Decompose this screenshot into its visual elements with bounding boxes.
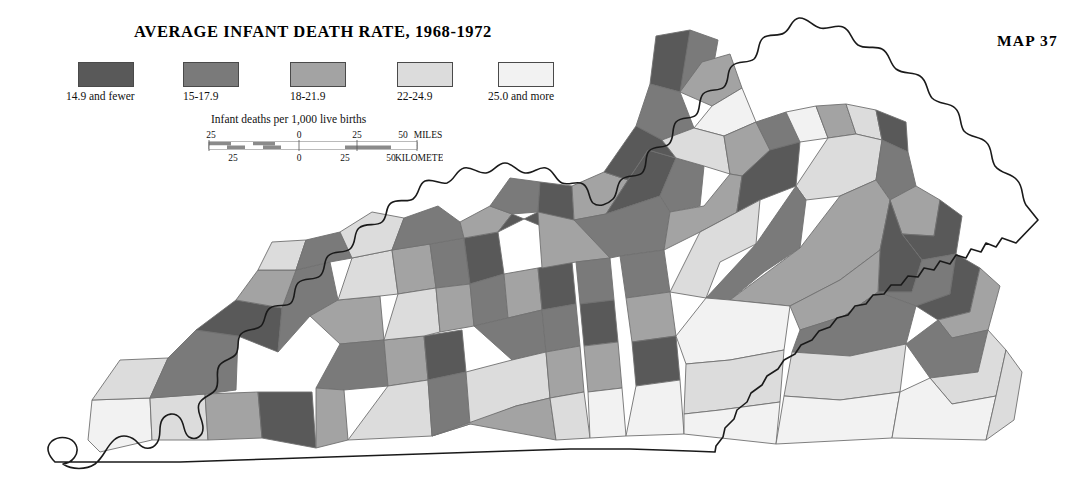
county-polygon bbox=[588, 388, 626, 438]
county-polygon bbox=[632, 336, 680, 386]
county-polygon bbox=[424, 330, 466, 380]
county-polygon bbox=[626, 292, 676, 342]
county-polygon bbox=[776, 392, 900, 444]
county-layer bbox=[88, 30, 1022, 452]
county-polygon bbox=[348, 380, 432, 440]
county-polygon bbox=[205, 392, 262, 440]
county-polygon bbox=[316, 340, 388, 390]
county-polygon bbox=[392, 244, 436, 294]
county-polygon bbox=[88, 398, 152, 452]
kentucky-choropleth-map bbox=[0, 0, 1076, 499]
county-polygon bbox=[580, 300, 618, 346]
county-polygon bbox=[384, 288, 440, 340]
county-polygon bbox=[384, 336, 428, 386]
county-polygon bbox=[542, 304, 580, 352]
county-polygon bbox=[576, 258, 614, 304]
county-polygon bbox=[436, 284, 474, 332]
county-polygon bbox=[504, 268, 542, 318]
county-polygon bbox=[546, 346, 584, 398]
county-polygon bbox=[538, 262, 576, 310]
county-polygon bbox=[316, 388, 348, 448]
county-polygon bbox=[584, 342, 622, 392]
county-polygon bbox=[258, 392, 316, 448]
county-polygon bbox=[430, 238, 470, 288]
county-polygon bbox=[490, 178, 540, 214]
county-polygon bbox=[626, 380, 684, 436]
county-polygon bbox=[550, 392, 590, 440]
county-polygon bbox=[620, 250, 670, 298]
